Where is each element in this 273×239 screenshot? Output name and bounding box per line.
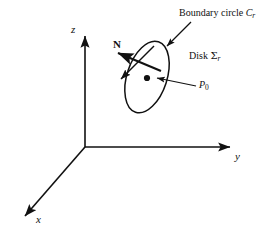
diagram-canvas [0, 0, 273, 239]
axis-label-y: y [235, 151, 240, 162]
axis-label-z: z [71, 24, 75, 35]
vector-calculus-diagram: z y x Boundary circle Cr Disk Σr P0 N [0, 0, 273, 239]
normal-vector-label: N [113, 39, 121, 50]
disk-group [117, 36, 178, 119]
disk-label: Disk Σr [189, 51, 220, 62]
disk-text: Disk [189, 50, 210, 61]
axis-label-x: x [36, 214, 41, 225]
leader-point-p0 [157, 78, 196, 86]
disk-back-arrow [121, 46, 154, 79]
normal-vector-arrow [118, 53, 161, 71]
center-point-dot [144, 75, 150, 81]
leader-boundary-circle [167, 22, 191, 46]
axes-group [25, 36, 230, 216]
point-subscript: 0 [205, 83, 209, 92]
boundary-circle-text: Boundary circle [179, 7, 246, 18]
disk-subscript: r [217, 54, 220, 63]
x-axis [25, 147, 85, 216]
boundary-circle-label: Boundary circle Cr [179, 8, 255, 19]
point-label: P0 [199, 80, 209, 91]
boundary-circle-subscript: r [252, 11, 255, 20]
